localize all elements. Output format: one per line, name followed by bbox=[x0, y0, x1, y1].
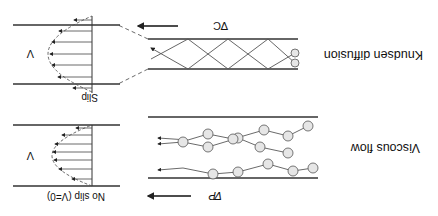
velocity-profile bbox=[52, 125, 92, 186]
panel-title: Knudsen diffusion bbox=[324, 48, 423, 62]
molecule bbox=[291, 49, 299, 57]
diagram-canvas: ∇C Knudsen diffusion V Slip bbox=[0, 0, 438, 216]
gradient-label: ∇C bbox=[213, 20, 229, 32]
wall-condition-label: No slip (V=0) bbox=[47, 191, 105, 202]
molecule-path-1 bbox=[151, 39, 295, 69]
particles bbox=[178, 121, 318, 179]
gradient-label: ∇P bbox=[208, 190, 223, 202]
viscous-panel: ∇P Viscous flow V No slip (V=0) bbox=[13, 117, 420, 202]
molecule bbox=[291, 59, 299, 67]
velocity-arrows bbox=[50, 20, 92, 88]
wall-condition-label: Slip bbox=[81, 92, 98, 103]
profile-label: V bbox=[26, 48, 34, 60]
panel-title: Viscous flow bbox=[350, 141, 420, 155]
knudsen-panel: ∇C Knudsen diffusion V Slip bbox=[13, 16, 423, 103]
flow-diagram: ∇C Knudsen diffusion V Slip bbox=[0, 0, 438, 216]
profile-label: V bbox=[26, 150, 34, 162]
velocity-arrows bbox=[53, 128, 92, 179]
